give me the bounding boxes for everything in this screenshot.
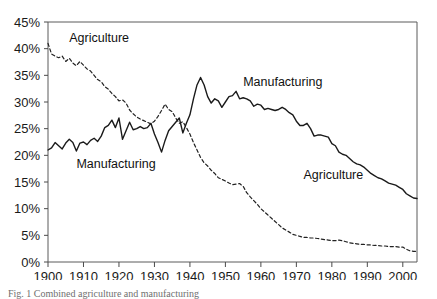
series-label-agriculture-0: Agriculture [69,31,129,45]
x-tick-label: 1900 [34,269,63,280]
x-tick-label: 1910 [69,269,98,280]
series-label-manufacturing-2: Manufacturing [243,75,322,89]
series-label-agriculture-3: Agriculture [303,168,363,182]
y-tick-label: 20% [14,148,40,163]
x-tick-label: 1970 [282,269,311,280]
y-tick-label: 30% [14,95,40,110]
x-tick-label: 1930 [140,269,169,280]
y-tick-label: 45% [14,15,40,30]
series-label-manufacturing-1: Manufacturing [76,157,155,171]
y-tick-label: 0% [21,255,40,270]
y-tick-label: 15% [14,175,40,190]
x-tick-label: 1940 [175,269,204,280]
figure-caption: Fig. 1 Combined agriculture and manufact… [8,288,428,299]
x-tick-label: 1950 [211,269,240,280]
plot-background [0,0,437,280]
y-tick-label: 25% [14,121,40,136]
x-tick-label: 1980 [317,269,346,280]
x-tick-label: 1920 [105,269,134,280]
y-tick-label: 40% [14,41,40,56]
line-chart: 0%5%10%15%20%25%30%35%40%45% 19001910192… [0,0,437,280]
y-tick-label: 5% [21,228,40,243]
y-tick-label: 35% [14,68,40,83]
x-tick-label: 1990 [353,269,382,280]
x-tick-label: 2000 [388,269,417,280]
x-tick-label: 1960 [246,269,275,280]
y-tick-label: 10% [14,201,40,216]
